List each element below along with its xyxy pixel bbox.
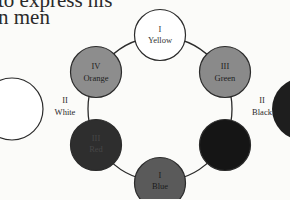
red-label: Red bbox=[89, 144, 103, 154]
outer-black-circle bbox=[272, 78, 290, 140]
node-yellow: I Yellow bbox=[135, 10, 186, 61]
black-label: Black bbox=[252, 107, 273, 117]
red-numeral: III bbox=[92, 133, 101, 143]
color-wheel-diagram: I Yellow III Green I Blue III Red IV Ora… bbox=[0, 0, 290, 199]
green-numeral: III bbox=[221, 61, 230, 71]
node-red: III Red bbox=[71, 120, 122, 171]
yellow-numeral: I bbox=[159, 24, 162, 34]
black-numeral: II bbox=[259, 95, 265, 105]
blue-numeral: I bbox=[159, 170, 162, 180]
orange-label: Orange bbox=[83, 73, 108, 83]
blue-label: Blue bbox=[152, 181, 168, 191]
node-blue: I Blue bbox=[135, 158, 186, 200]
node-green: III Green bbox=[200, 47, 251, 98]
green-label: Green bbox=[215, 73, 237, 83]
outer-white-circle bbox=[0, 78, 43, 140]
node-black bbox=[200, 120, 251, 171]
white-numeral: II bbox=[62, 95, 68, 105]
orange-numeral: IV bbox=[92, 61, 102, 71]
white-label: White bbox=[55, 107, 76, 117]
yellow-label: Yellow bbox=[148, 35, 173, 45]
node-orange: IV Orange bbox=[71, 47, 122, 98]
